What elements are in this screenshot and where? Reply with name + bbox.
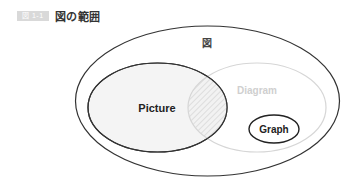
label-graph: Graph — [259, 124, 288, 135]
label-picture: Picture — [138, 102, 175, 114]
label-diagram: Diagram — [237, 85, 277, 96]
venn-diagram: 図 Picture Diagram Graph — [0, 0, 357, 183]
label-outer-figure: 図 — [202, 38, 212, 49]
